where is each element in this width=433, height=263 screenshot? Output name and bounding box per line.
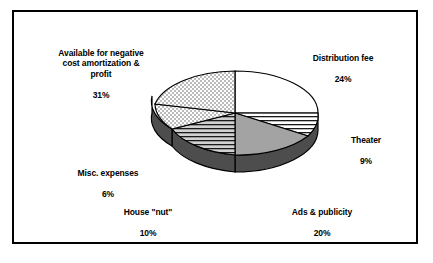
slice-label-misc-expenses: Misc. expenses 6% bbox=[58, 157, 158, 210]
slice-label-distribution-fee: Distribution fee 24% bbox=[287, 42, 399, 95]
slice-label-theater-value: 9% bbox=[330, 156, 402, 167]
slice-label-distribution-fee-name: Distribution fee bbox=[287, 53, 399, 64]
slice-label-theater-name: Theater bbox=[330, 135, 402, 146]
slice-label-ads-publicity-value: 20% bbox=[274, 228, 370, 239]
slice-label-ads-publicity-name: Ads & publicity bbox=[274, 207, 370, 218]
slice-label-misc-expenses-name: Misc. expenses bbox=[58, 168, 158, 179]
slice-label-house-nut-value: 10% bbox=[100, 228, 196, 239]
slice-label-available-name: Available for negative cost amortization… bbox=[36, 48, 166, 80]
slice-label-theater: Theater 9% bbox=[330, 124, 402, 177]
slice-label-misc-expenses-value: 6% bbox=[58, 189, 158, 200]
slice-label-available-value: 31% bbox=[36, 90, 166, 101]
slice-label-available: Available for negative cost amortization… bbox=[36, 37, 166, 111]
slice-label-ads-publicity: Ads & publicity 20% bbox=[274, 196, 370, 249]
pie-chart-figure: Available for negative cost amortization… bbox=[0, 0, 433, 263]
slice-label-distribution-fee-value: 24% bbox=[287, 74, 399, 85]
